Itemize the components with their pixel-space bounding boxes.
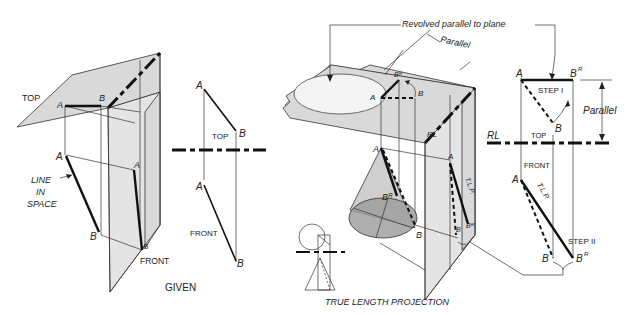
rl-br-side: Bᴿ (466, 222, 475, 229)
line-in-space-label-1: LINE (31, 175, 52, 185)
rl-ortho-br-top: B (570, 68, 577, 79)
side-plane (145, 92, 160, 248)
rl-ortho-br-front: B (576, 253, 583, 264)
rl-ortho-rl-label: RL (487, 130, 500, 141)
rl-ortho-a-top: A (515, 68, 523, 79)
true-length-diagram: TOP A B A B A B LINE IN SPACE FRONT A B … (0, 0, 636, 315)
rl-b-front: B (416, 230, 422, 240)
rl-a-front: A (372, 144, 379, 154)
rl-b-side: B (456, 226, 461, 233)
top-plane-label: TOP (22, 93, 40, 103)
given-pictorial-box: TOP A B A B A B LINE IN SPACE FRONT (17, 53, 169, 292)
point-b-top: B (99, 93, 105, 103)
rl-a-top: A (369, 93, 375, 102)
ortho-a-top: A (195, 80, 203, 91)
given-orthographic: A B TOP A FRONT B (172, 80, 266, 269)
point-a-side: A (133, 160, 140, 170)
ortho-b-front: B (237, 258, 244, 269)
line-ab-space (66, 156, 99, 232)
rl-br-top: Bᴿ (394, 71, 403, 78)
true-length-pictorial: A B Bᴿ RL A Bᴿ B A T.L.P. B Bᴿ Parallel (283, 25, 477, 300)
ortho-b-top: B (239, 128, 246, 139)
true-length-orthographic: A B R STEP I B Parallel RL TOP FRONT A T… (470, 25, 617, 275)
ortho-front-label: FRONT (190, 229, 218, 238)
line-in-space-label-3: SPACE (27, 199, 58, 209)
rl-ortho-b-top: B (555, 123, 562, 134)
point-a-space: A (55, 151, 63, 162)
line-in-space-label-2: IN (36, 187, 46, 197)
rl-ortho-top-label: TOP (531, 131, 546, 140)
rl-b-top: B (418, 89, 424, 98)
ortho-a-front: A (195, 181, 203, 192)
front-plane-label: FRONT (140, 256, 169, 266)
rl-ortho-tlp-label: T.L.P. (535, 181, 552, 201)
aux-sketch (296, 224, 345, 290)
point-a-top: A (56, 100, 63, 110)
point-b-space: B (90, 231, 97, 242)
rl-ortho-b-front: B (542, 253, 549, 264)
point-b-side: B (143, 242, 149, 251)
rl-a-side: A (447, 152, 453, 161)
step-one-label: STEP I (538, 86, 563, 95)
rl-ortho-br-top-sup: R (578, 66, 583, 72)
caption-true-length: TRUE LENGTH PROJECTION (325, 297, 450, 307)
rl-hinge-label: RL (427, 130, 437, 139)
ortho-top-label: TOP (212, 132, 228, 141)
rl-ortho-front-label: FRONT (524, 161, 550, 170)
rl-ortho-br-front-sup: R (584, 251, 589, 257)
caption-given: GIVEN (165, 282, 196, 293)
rl-parallel-label: Parallel (440, 34, 472, 50)
rl-ortho-a-front: A (511, 174, 519, 185)
rl-br-front: Bᴿ (382, 192, 393, 202)
callout-revolved: Revolved parallel to plane (402, 19, 506, 29)
step-two-label: STEP II (568, 237, 595, 246)
rl-ortho-parallel-label: Parallel (583, 105, 617, 116)
